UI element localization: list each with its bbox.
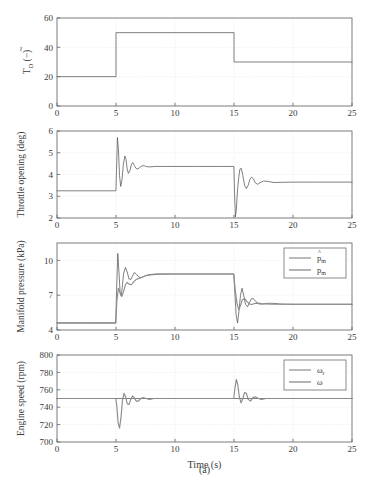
plot-frame (57, 131, 352, 218)
x-tick-label: 0 (55, 220, 60, 230)
x-tick-label: 0 (55, 108, 60, 118)
legend-label: ω (317, 377, 323, 387)
x-tick-label: 0 (55, 444, 60, 454)
x-tick-label: 15 (230, 108, 240, 118)
y-axis-label: Manifold pressure (kPa) (16, 240, 27, 332)
y-tick-label: 780 (40, 368, 54, 378)
subplot-3: 05101520254710Manifold pressure (kPa)pm^… (16, 240, 357, 342)
y-tick-label: 700 (40, 437, 54, 447)
x-tick-label: 20 (289, 108, 299, 118)
x-tick-label: 10 (171, 444, 181, 454)
x-tick-label: 20 (289, 332, 299, 342)
y-tick-label: 4 (49, 170, 54, 180)
x-tick-label: 25 (348, 220, 358, 230)
figure-caption: (a) (199, 464, 210, 476)
subplot-2: 051015202523456Throttle opening (deg) (16, 126, 357, 230)
tilde-accent-icon: ~ (16, 46, 26, 51)
x-tick-label: 15 (230, 444, 240, 454)
y-tick-label: 20 (44, 72, 54, 82)
y-tick-label: 760 (40, 385, 54, 395)
x-tick-label: 25 (348, 444, 358, 454)
x-tick-label: 5 (114, 444, 119, 454)
x-tick-label: 20 (289, 220, 299, 230)
y-tick-label: 740 (40, 402, 54, 412)
x-tick-label: 15 (230, 332, 240, 342)
y-tick-label: 800 (40, 350, 54, 360)
series-p_m (57, 274, 352, 323)
series-throttle (57, 138, 352, 217)
y-tick-label: 5 (49, 148, 54, 158)
x-tick-label: 5 (114, 108, 119, 118)
x-tick-label: 10 (171, 108, 181, 118)
x-tick-label: 25 (348, 108, 358, 118)
x-tick-label: 5 (114, 332, 119, 342)
x-tick-label: 20 (289, 444, 299, 454)
x-tick-label: 25 (348, 332, 358, 342)
subplot-4: 0510152025700720740760780800Engine speed… (16, 350, 357, 471)
legend-box (284, 360, 346, 390)
series-T_D (57, 33, 352, 77)
y-tick-label: 2 (49, 213, 54, 223)
x-tick-label: 0 (55, 332, 60, 342)
legend-box (284, 248, 346, 278)
y-tick-label: 720 (40, 420, 54, 430)
x-tick-label: 5 (114, 220, 119, 230)
y-tick-label: 7 (49, 290, 54, 300)
y-axis-label: Engine speed (rpm) (16, 361, 27, 436)
y-tick-label: 10 (44, 256, 54, 266)
y-tick-label: 0 (49, 101, 54, 111)
subplot-1: 05101520250204060TD (−)~ (16, 13, 358, 118)
y-tick-label: 4 (49, 325, 54, 335)
y-axis-label: Throttle opening (deg) (16, 131, 27, 217)
x-tick-label: 15 (230, 220, 240, 230)
y-axis-label: TD (−) (22, 50, 34, 75)
x-tick-label: 10 (171, 220, 181, 230)
y-tick-label: 3 (49, 191, 54, 201)
x-tick-label: 10 (171, 332, 181, 342)
y-tick-label: 6 (49, 126, 54, 136)
y-tick-label: 60 (44, 13, 54, 23)
y-tick-label: 40 (44, 43, 54, 53)
engine-control-figure: 05101520250204060TD (−)~051015202523456T… (0, 0, 374, 487)
